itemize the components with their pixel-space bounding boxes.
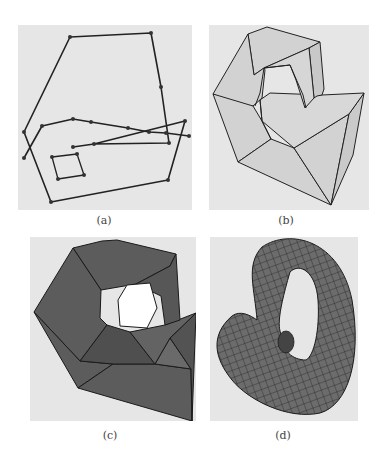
caption-c: (c)	[90, 429, 130, 442]
dark-mesh-figure	[30, 237, 196, 421]
caption-d: (d)	[263, 429, 303, 442]
caption-b: (b)	[266, 214, 306, 227]
control-polygon-figure	[18, 25, 192, 210]
panel-b	[209, 25, 369, 210]
light-mesh-figure	[209, 25, 369, 210]
panel-a	[18, 25, 192, 210]
caption-a: (a)	[84, 214, 124, 227]
panel-c	[30, 237, 196, 421]
panel-d	[210, 237, 358, 421]
torus-surface-figure	[210, 237, 358, 421]
